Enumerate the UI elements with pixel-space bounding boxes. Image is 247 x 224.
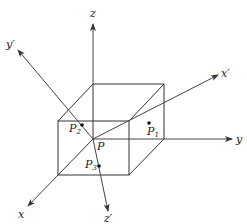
cube-bottom-right-edge: [129, 139, 164, 175]
x-axis: [28, 175, 58, 206]
point-p-label: P: [96, 140, 105, 153]
point-p2-dot: [80, 123, 84, 127]
point-p2-label: P2: [68, 122, 81, 136]
point-p3-dot: [97, 164, 101, 168]
x-prime-axis-label: x′: [221, 67, 230, 80]
cube-top-right-edge: [129, 84, 164, 121]
x-prime-axis: [93, 75, 218, 139]
cube-axes-diagram: z y x x′ y′ z′ P P1 P2 P3: [0, 0, 247, 224]
z-prime-axis-label: z′: [103, 212, 113, 224]
x-axis-label: x: [18, 208, 25, 221]
y-prime-axis-label: y′: [5, 38, 15, 51]
z-axis-label: z: [89, 7, 96, 20]
cube-top-left-edge: [58, 84, 93, 121]
rotated-axes: [18, 50, 218, 211]
point-p3-label: P3: [84, 158, 97, 172]
point-p1-label: P1: [146, 125, 159, 139]
y-axis-label: y: [235, 133, 243, 146]
original-axes: [28, 24, 232, 206]
